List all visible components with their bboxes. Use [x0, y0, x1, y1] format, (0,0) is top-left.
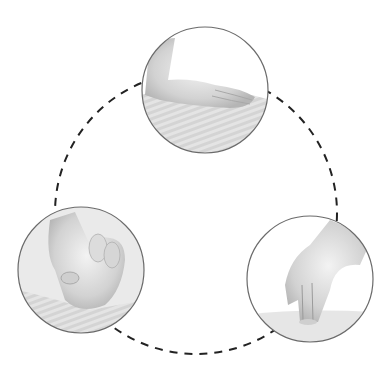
cycle-diagram	[0, 0, 387, 373]
technique-photo-left	[15, 205, 150, 340]
technique-photo-top	[140, 27, 270, 160]
technique-photo-right	[245, 215, 375, 345]
